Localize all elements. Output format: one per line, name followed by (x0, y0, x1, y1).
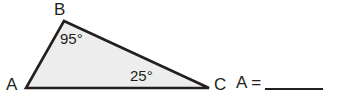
answer-blank-input[interactable] (265, 88, 323, 90)
angle-measure-c: 25° (130, 68, 153, 83)
angle-measure-b: 95° (60, 31, 83, 46)
answer-prompt: A = (236, 74, 323, 91)
vertex-label-b: B (54, 1, 65, 18)
vertex-label-a: A (6, 76, 17, 93)
vertex-label-c: C (214, 76, 226, 93)
geometry-figure: B A C 95° 25° A = (0, 0, 337, 107)
equals-sign: = (251, 74, 261, 91)
triangle-shape (26, 21, 209, 88)
answer-variable-label: A (236, 74, 247, 91)
